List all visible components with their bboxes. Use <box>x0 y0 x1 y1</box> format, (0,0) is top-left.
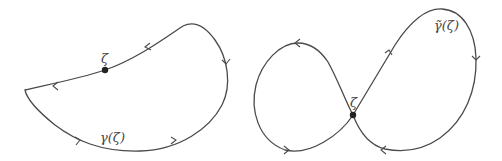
arrow-icon <box>145 43 151 50</box>
left-curve-label: γ(ζ) <box>100 130 125 145</box>
right-curve-label: γ̃(ζ) <box>434 18 459 33</box>
left-point-label: ζ <box>101 51 109 66</box>
point-zeta-marker <box>350 112 356 118</box>
point-zeta-marker <box>102 67 108 73</box>
arrow-icon <box>222 59 230 64</box>
diagram-canvas: ζ γ(ζ) ζ γ̃(ζ) <box>0 0 502 161</box>
arrow-icon <box>171 137 176 144</box>
arrow-icon <box>381 146 386 154</box>
left-closed-curve <box>25 24 230 151</box>
right-point-label: ζ <box>350 95 358 110</box>
